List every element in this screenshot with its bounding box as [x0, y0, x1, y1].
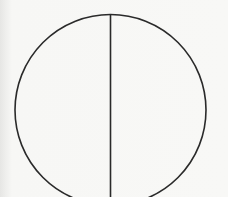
circle-diagram: [0, 0, 228, 197]
diagram-canvas: [0, 0, 228, 197]
